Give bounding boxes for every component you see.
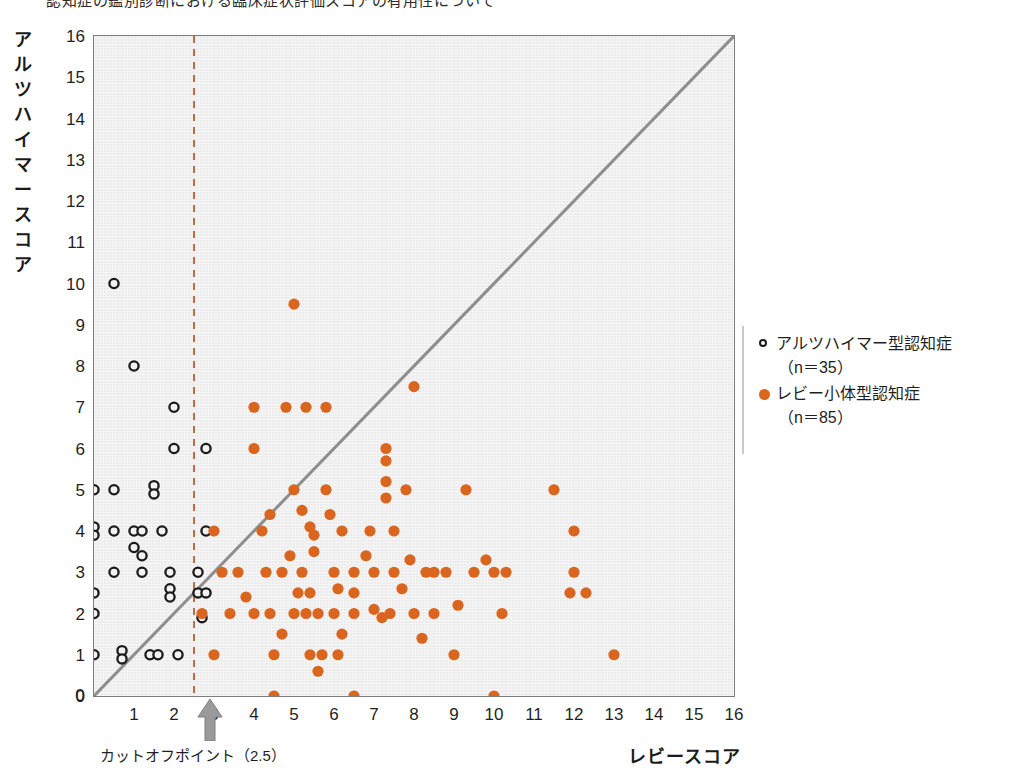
data-point — [169, 444, 178, 453]
y-axis-label: アルツハイマースコア — [8, 28, 38, 278]
x-axis-label: レビースコア — [628, 742, 741, 768]
data-point — [165, 592, 174, 601]
chart-page: 認知症の鑑別診断における臨床症状評価スコアの有用性について アルツハイマースコア… — [0, 0, 1013, 779]
data-point — [336, 629, 347, 640]
data-point — [368, 604, 379, 615]
data-point — [137, 526, 146, 535]
y-tick-2: 2 — [51, 606, 85, 623]
y-tick-13: 13 — [51, 152, 85, 169]
data-point — [608, 649, 619, 660]
data-point — [320, 402, 331, 413]
data-point — [480, 554, 491, 565]
data-point — [137, 568, 146, 577]
data-point — [109, 568, 118, 577]
data-point — [360, 550, 371, 561]
data-point — [256, 525, 267, 536]
data-point — [348, 587, 359, 598]
data-point — [428, 567, 439, 578]
data-point — [320, 484, 331, 495]
data-point — [300, 608, 311, 619]
data-point — [149, 489, 158, 498]
y-tick-9: 9 — [51, 317, 85, 334]
data-point — [452, 600, 463, 611]
data-point — [276, 629, 287, 640]
y-tick-15: 15 — [51, 69, 85, 86]
y-axis-label-text: アルツハイマースコア — [8, 28, 38, 278]
data-point — [332, 583, 343, 594]
data-point — [173, 650, 182, 659]
y-tick-16: 16 — [51, 28, 85, 45]
data-point — [380, 492, 391, 503]
data-point — [312, 666, 323, 677]
data-point — [248, 402, 259, 413]
legend-item-dlb: レビー小体型認知症 （n＝85） — [757, 382, 1007, 430]
data-point — [93, 531, 99, 540]
data-point — [336, 525, 347, 536]
data-point — [396, 583, 407, 594]
data-point — [348, 608, 359, 619]
y-tick-4: 4 — [51, 523, 85, 540]
data-point — [288, 484, 299, 495]
data-point — [193, 568, 202, 577]
data-point — [201, 588, 210, 597]
data-point — [380, 455, 391, 466]
data-point — [240, 591, 251, 602]
y-tick-11: 11 — [51, 234, 85, 251]
data-point — [488, 567, 499, 578]
data-point — [368, 567, 379, 578]
plot-area — [93, 35, 735, 697]
data-point — [288, 299, 299, 310]
data-point — [280, 402, 291, 413]
data-point — [332, 649, 343, 660]
data-point — [201, 444, 210, 453]
data-point — [388, 525, 399, 536]
x-tick-0: 0 — [63, 687, 97, 704]
data-point — [248, 608, 259, 619]
data-point — [276, 567, 287, 578]
data-point — [248, 443, 259, 454]
legend-open-circle-icon — [757, 332, 773, 356]
y-tick-3: 3 — [51, 564, 85, 581]
legend-label-dlb: レビー小体型認知症 — [776, 382, 920, 406]
data-point — [308, 530, 319, 541]
data-point — [548, 484, 559, 495]
data-point — [109, 526, 118, 535]
y-tick-8: 8 — [51, 358, 85, 375]
cutoff-point-label: カットオフポイント（2.5） — [100, 744, 286, 765]
legend-item-ad: アルツハイマー型認知症 （n＝35） — [757, 332, 1007, 380]
data-point — [404, 554, 415, 565]
data-point — [448, 649, 459, 660]
legend-label-ad: アルツハイマー型認知症 — [776, 332, 952, 356]
y-tick-6: 6 — [51, 441, 85, 458]
data-point — [460, 484, 471, 495]
legend: アルツハイマー型認知症 （n＝35） レビー小体型認知症 （n＝85） — [757, 332, 1007, 432]
data-point — [568, 567, 579, 578]
y-tick-5: 5 — [51, 482, 85, 499]
legend-filled-circle-icon — [757, 382, 773, 406]
data-point — [264, 509, 275, 520]
data-point — [232, 567, 243, 578]
data-point — [408, 381, 419, 392]
page-gutter-line — [742, 326, 744, 454]
data-point — [208, 525, 219, 536]
data-point — [304, 649, 315, 660]
data-point — [224, 608, 235, 619]
data-point — [93, 485, 99, 494]
data-point — [568, 525, 579, 536]
data-point — [196, 608, 207, 619]
data-point — [468, 567, 479, 578]
data-point — [316, 649, 327, 660]
data-point — [400, 484, 411, 495]
data-point — [580, 587, 591, 598]
data-point — [296, 567, 307, 578]
data-point — [288, 608, 299, 619]
data-point — [268, 649, 279, 660]
data-point — [117, 654, 126, 663]
data-point — [129, 361, 138, 370]
data-point — [137, 551, 146, 560]
data-point — [500, 567, 511, 578]
data-point — [408, 608, 419, 619]
axis-tick-marks — [93, 697, 735, 709]
data-point — [384, 608, 395, 619]
data-point — [165, 568, 174, 577]
